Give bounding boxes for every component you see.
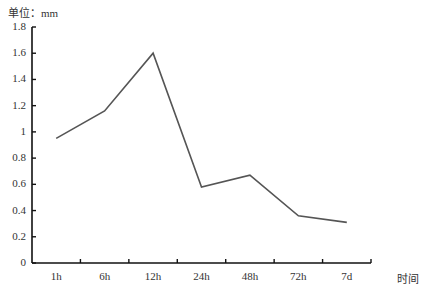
line-chart (0, 0, 423, 295)
series-line (56, 53, 347, 222)
axes (32, 27, 371, 263)
